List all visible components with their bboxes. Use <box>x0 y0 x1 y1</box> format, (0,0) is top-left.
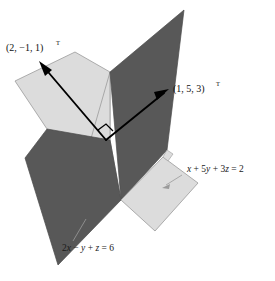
normal-vector-2-minus1-1-superscript: T <box>56 39 60 46</box>
vector-planes-figure: (2, −1, 1) T (1, 5, 3) T x + 5y + 3z = 2… <box>0 0 275 281</box>
figure-canvas: (2, −1, 1) T (1, 5, 3) T x + 5y + 3z = 2… <box>0 0 275 281</box>
normal-vector-2-minus1-1-label: (2, −1, 1) <box>6 42 43 54</box>
dark-plane-equation-label: 2x − y + z = 6 <box>62 243 114 253</box>
normal-vector-1-5-3-label: (1, 5, 3) <box>173 83 205 95</box>
light-plane-equation-label: x + 5y + 3z = 2 <box>186 164 244 174</box>
normal-vector-1-5-3-superscript: T <box>216 80 220 87</box>
